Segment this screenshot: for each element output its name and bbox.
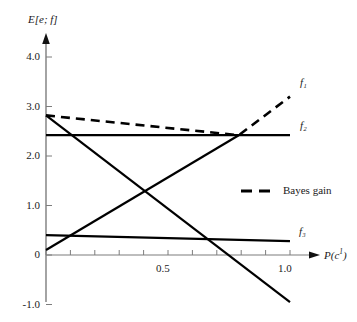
series-f3 xyxy=(46,235,290,241)
series-rising-line xyxy=(46,135,239,250)
y-tick-label-0: 4.0 xyxy=(12,50,40,62)
chart-canvas xyxy=(0,0,357,322)
series-f1-bayes-gain xyxy=(46,97,290,136)
legend-label-bayes-gain: Bayes gain xyxy=(283,184,332,196)
y-axis-ticks xyxy=(46,57,52,305)
y-axis-title: E[e; f] xyxy=(28,13,58,25)
curve-label-f3: f₃ xyxy=(299,225,306,237)
curve-label-f1: f₁ xyxy=(300,76,307,88)
x-axis-ticks xyxy=(46,250,290,255)
x-axis-title-base: P(c xyxy=(324,249,339,261)
series-descending-line xyxy=(46,115,290,302)
y-axis xyxy=(42,33,50,302)
x-axis-title-close: ) xyxy=(343,249,347,261)
x-axis-title: P(c1) xyxy=(324,247,347,261)
x-tick-label-5: 0.5 xyxy=(156,262,170,274)
legend-item-bayes-gain: Bayes gain xyxy=(283,184,332,196)
y-axis-title-text: E[e; f] xyxy=(28,13,58,25)
y-tick-label-3: 1.0 xyxy=(12,199,40,211)
x-axis xyxy=(46,251,320,258)
x-tick-label-10: 1.0 xyxy=(278,262,292,274)
y-tick-label-2: 2.0 xyxy=(12,149,40,161)
y-tick-label-1: 3.0 xyxy=(12,100,40,112)
y-tick-label-5: -1.0 xyxy=(12,298,40,310)
y-tick-label-4: 0 xyxy=(12,248,40,260)
chart-figure: E[e; f] P(c1) Bayes gain 0.51.04.03.02.0… xyxy=(0,0,357,322)
curve-label-f2: f₂ xyxy=(300,119,307,131)
